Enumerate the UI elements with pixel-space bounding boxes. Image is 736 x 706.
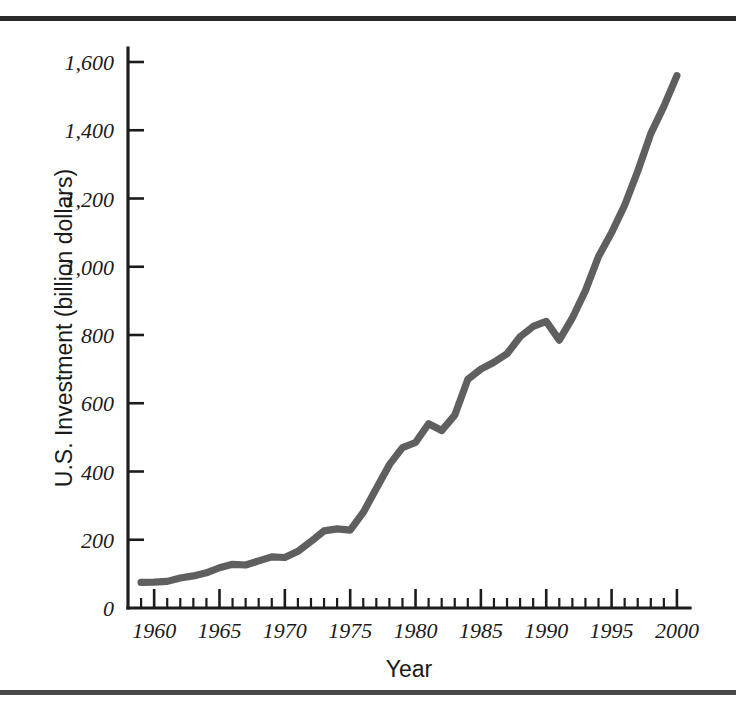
bottom-rule-divider — [0, 690, 736, 695]
investment-line-series — [141, 76, 677, 583]
x-tick-label-1980: 1980 — [394, 618, 438, 643]
x-axis-tick-labels: 196019651970197519801985199019952000 — [132, 618, 699, 643]
x-tick-label-2000: 2000 — [655, 618, 699, 643]
y-axis-ticks — [128, 62, 144, 540]
x-tick-label-1985: 1985 — [459, 618, 503, 643]
y-tick-label-1400: 1,400 — [65, 118, 115, 143]
y-tick-label-400: 400 — [81, 460, 114, 485]
x-tick-label-1970: 1970 — [263, 618, 307, 643]
x-tick-label-1960: 1960 — [132, 618, 176, 643]
x-tick-label-1975: 1975 — [328, 618, 372, 643]
chart-container: 02004006008001,0001,2001,4001,600 196019… — [0, 20, 736, 688]
y-axis-title: U.S. Investment (billion dollars) — [51, 169, 77, 487]
x-axis-title: Year — [386, 656, 433, 682]
figure-page: 02004006008001,0001,2001,4001,600 196019… — [0, 0, 736, 706]
line-chart-svg: 02004006008001,0001,2001,4001,600 196019… — [0, 20, 736, 688]
y-tick-label-800: 800 — [81, 323, 114, 348]
x-tick-label-1995: 1995 — [590, 618, 634, 643]
y-tick-label-200: 200 — [81, 528, 114, 553]
x-tick-label-1990: 1990 — [524, 618, 568, 643]
y-tick-label-0: 0 — [103, 596, 114, 621]
y-tick-label-1600: 1,600 — [65, 50, 115, 75]
y-tick-label-600: 600 — [81, 391, 114, 416]
x-tick-label-1965: 1965 — [197, 618, 241, 643]
